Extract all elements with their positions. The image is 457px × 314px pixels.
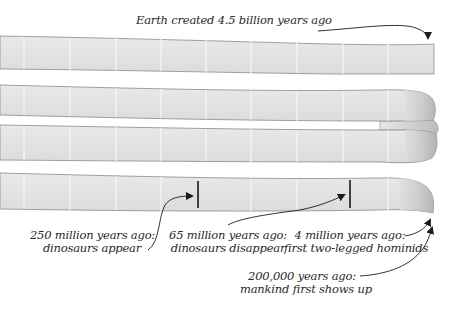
label-line: mankind first shows up <box>240 283 364 296</box>
label-line: dinosaurs appear <box>30 242 154 255</box>
label-earth-created: Earth created 4.5 billion years ago <box>136 14 332 27</box>
label-hominids: 4 million years ago: first two-legged ho… <box>284 229 416 255</box>
label-line: Earth created 4.5 billion years ago <box>136 14 332 27</box>
strip-4 <box>0 173 434 213</box>
label-dinosaurs-appear: 250 million years ago: dinosaurs appear <box>30 229 154 255</box>
arrow-earth-created <box>318 25 428 38</box>
label-line: first two-legged hominids <box>284 242 416 255</box>
folded-timeline-strip <box>0 0 457 314</box>
strip-2-3-fold <box>0 85 438 163</box>
label-dinosaurs-disappear: 65 million years ago: dinosaurs disappea… <box>168 229 288 255</box>
timeline-diagram: Earth created 4.5 billion years ago 250 … <box>0 0 457 314</box>
label-line: dinosaurs disappear <box>168 242 288 255</box>
strip-1 <box>0 36 434 74</box>
label-mankind: 200,000 years ago: mankind first shows u… <box>240 270 364 296</box>
